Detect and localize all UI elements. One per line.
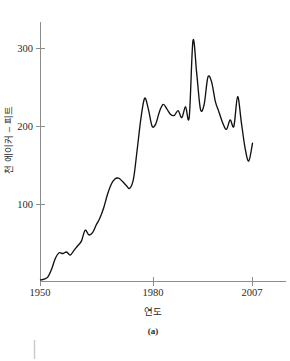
x-tick-label-1950: 1950 <box>30 287 51 298</box>
x-axis-title: 연도 <box>144 306 162 317</box>
figure-container: 300 200 100 1950 1980 2007 천 에이커 – 피트 연도… <box>0 0 290 361</box>
y-axis-title: 천 에이커 – 피트 <box>3 106 14 173</box>
x-tick-label-1980: 1980 <box>143 287 164 298</box>
y-tick-label-300: 300 <box>17 43 33 54</box>
x-tick-label-2007: 2007 <box>242 287 263 298</box>
y-tick-label-100: 100 <box>17 199 33 210</box>
y-tick-label-200: 200 <box>17 121 33 132</box>
data-series-line <box>41 40 253 280</box>
subfigure-label: (a) <box>148 326 159 336</box>
line-chart: 300 200 100 1950 1980 2007 천 에이커 – 피트 연도… <box>0 0 290 361</box>
